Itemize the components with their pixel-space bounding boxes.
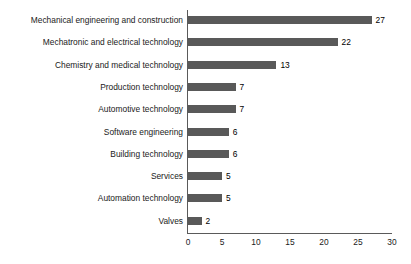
- category-label: Chemistry and medical technology: [0, 54, 183, 76]
- category-label: Automation technology: [0, 187, 183, 209]
- bar: [188, 150, 229, 158]
- category-label: Services: [0, 165, 183, 187]
- bar-row: Valves2: [0, 210, 411, 232]
- bar: [188, 105, 236, 113]
- bar-value-label: 27: [376, 9, 385, 31]
- category-label: Building technology: [0, 143, 183, 165]
- category-label: Automotive technology: [0, 98, 183, 120]
- category-label: Valves: [0, 210, 183, 232]
- plot-area: Mechanical engineering and construction2…: [0, 0, 411, 264]
- bar-value-label: 5: [226, 165, 231, 187]
- bar-row: Services5: [0, 165, 411, 187]
- x-tick-label: 10: [246, 236, 266, 248]
- bar: [188, 217, 202, 225]
- bar-value-label: 6: [233, 143, 238, 165]
- category-label: Mechatronic and electrical technology: [0, 31, 183, 53]
- x-tick-label: 20: [314, 236, 334, 248]
- bar: [188, 128, 229, 136]
- bar-value-label: 13: [280, 54, 289, 76]
- bar: [188, 194, 222, 202]
- bar-value-label: 5: [226, 187, 231, 209]
- bar-row: Automation technology5: [0, 187, 411, 209]
- bar-value-label: 2: [206, 210, 211, 232]
- category-label: Production technology: [0, 76, 183, 98]
- bar-row: Software engineering6: [0, 121, 411, 143]
- x-tick-label: 25: [348, 236, 368, 248]
- bar-value-label: 7: [240, 98, 245, 120]
- category-label: Mechanical engineering and construction: [0, 9, 183, 31]
- x-tick-label: 15: [280, 236, 300, 248]
- bar-row: Mechatronic and electrical technology22: [0, 31, 411, 53]
- bar: [188, 83, 236, 91]
- x-tick-label: 0: [178, 236, 198, 248]
- bar: [188, 61, 276, 69]
- bar-row: Production technology7: [0, 76, 411, 98]
- x-axis-line: [187, 233, 392, 234]
- bar-value-label: 7: [240, 76, 245, 98]
- bar-row: Mechanical engineering and construction2…: [0, 9, 411, 31]
- bar-row: Building technology6: [0, 143, 411, 165]
- bar-value-label: 22: [342, 31, 351, 53]
- x-tick-label: 30: [382, 236, 402, 248]
- category-label: Software engineering: [0, 121, 183, 143]
- x-tick-label: 5: [212, 236, 232, 248]
- bar-value-label: 6: [233, 121, 238, 143]
- bar-row: Chemistry and medical technology13: [0, 54, 411, 76]
- bar-row: Automotive technology7: [0, 98, 411, 120]
- bar-chart: Mechanical engineering and construction2…: [0, 0, 411, 264]
- bar: [188, 16, 372, 24]
- bar: [188, 38, 338, 46]
- bar: [188, 172, 222, 180]
